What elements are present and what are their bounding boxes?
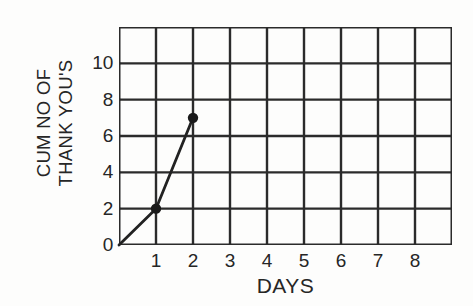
x-tick-label: 7 [366,251,390,270]
x-tick-label: 2 [181,251,205,270]
x-tick-label: 1 [144,251,168,270]
x-tick-label: 8 [403,251,427,270]
x-tick-label: 3 [218,251,242,270]
y-axis-title-line-2: THANK YOU'S [55,28,77,218]
y-axis-title-line-1: CUM NO OF [33,28,55,218]
x-tick-label: 6 [329,251,353,270]
x-axis-title: DAYS [119,274,452,297]
x-tick-label: 5 [292,251,316,270]
y-axis-title: CUM NO OF THANK YOU'S [33,28,77,218]
x-tick-label: 4 [255,251,279,270]
chart-figure: 0246810 12345678 CUM NO OF THANK YOU'S D… [0,0,473,306]
